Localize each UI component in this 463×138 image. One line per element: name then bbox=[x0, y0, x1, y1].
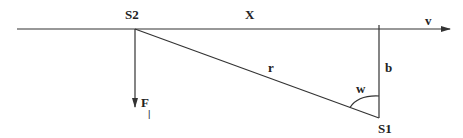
r-segment-line bbox=[135, 29, 379, 118]
v-label: v bbox=[425, 13, 432, 28]
s2-label: S2 bbox=[125, 7, 139, 22]
x-label: X bbox=[245, 7, 255, 22]
w-label: w bbox=[356, 81, 366, 96]
b-label: b bbox=[385, 60, 392, 75]
w-angle-arc bbox=[350, 96, 379, 108]
r-label: r bbox=[268, 60, 274, 75]
diagram-canvas: S2 X v r b w F | S1 bbox=[0, 0, 463, 138]
s1-label: S1 bbox=[378, 121, 392, 136]
diagram-svg: S2 X v r b w F | S1 bbox=[0, 0, 463, 138]
f-subscript: | bbox=[148, 107, 150, 119]
